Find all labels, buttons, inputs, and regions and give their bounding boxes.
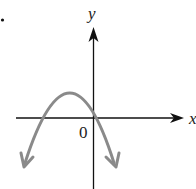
y-axis-label: y [86, 4, 96, 23]
parabola-curve [21, 93, 119, 167]
parabola-graph-figure: y x 0 [0, 0, 196, 189]
origin-label: 0 [79, 123, 88, 142]
bullet-dot [1, 18, 4, 21]
x-axis-label: x [188, 109, 196, 128]
